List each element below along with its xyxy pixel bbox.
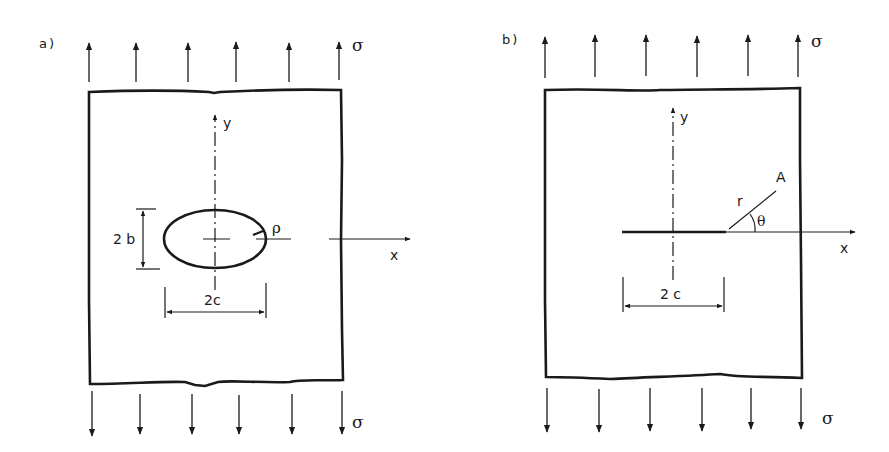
angle-theta-label: θ (757, 214, 765, 228)
dim-2b-label: 2 b (113, 232, 135, 246)
panel-b (545, 35, 855, 432)
radius-r-label: r (737, 194, 743, 208)
top-stress-arrows (89, 42, 339, 82)
radius-pointer (253, 231, 263, 235)
angle-arc (750, 214, 755, 232)
dim-2c-label-b: 2 c (660, 287, 681, 301)
dim-2c-label-a: 2c (204, 293, 221, 307)
x-axis-label-b: x (840, 241, 848, 255)
panel-a-label: a) (39, 37, 56, 50)
top-stress-arrows (545, 35, 798, 78)
x-axis-label-a: x (390, 248, 398, 262)
diagram-canvas (0, 0, 889, 452)
y-axis-label-b: y (680, 110, 688, 124)
stress-top-a: σ (352, 37, 364, 54)
bottom-stress-arrows (92, 391, 342, 436)
stress-bottom-a: σ (352, 414, 364, 431)
y-axis-label-a: y (223, 116, 231, 130)
panel-a (89, 42, 410, 436)
stress-bottom-b: σ (822, 410, 834, 427)
stress-top-b: σ (811, 33, 823, 50)
radius-rho-label: ρ (272, 221, 281, 236)
bottom-stress-arrows (547, 388, 801, 432)
point-a-label: A (776, 170, 786, 184)
panel-b-label: b) (502, 33, 519, 46)
